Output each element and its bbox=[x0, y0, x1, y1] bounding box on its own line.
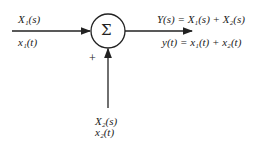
x1-time-label: x₁(t) bbox=[18, 36, 37, 48]
x1-laplace-label: X₁(s) bbox=[18, 13, 40, 25]
output-time-label: y(t) = x₁(t) + x₂(t) bbox=[162, 36, 241, 48]
plus-sign: + bbox=[89, 51, 96, 66]
x2-time-label: x₂(t) bbox=[95, 126, 114, 138]
output-laplace-label: Y(s) = X₁(s) + X₂(s) bbox=[157, 13, 245, 25]
sigma-symbol: Σ bbox=[101, 21, 112, 39]
